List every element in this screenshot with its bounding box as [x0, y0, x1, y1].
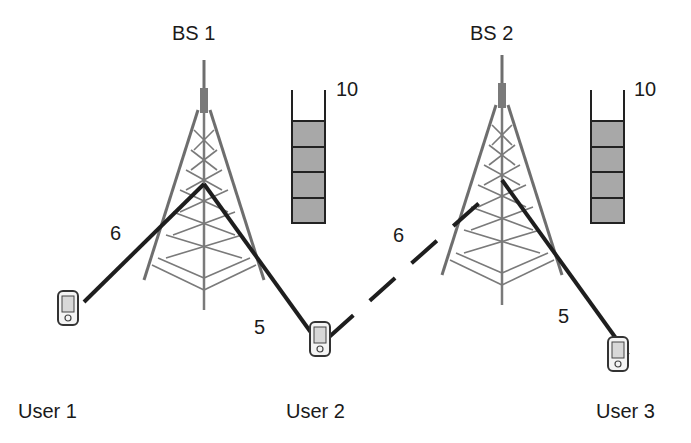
bs2-queue-capacity: 10	[634, 78, 656, 101]
phone-icon	[310, 322, 330, 356]
link-weight-user2-bs2: 6	[393, 224, 404, 247]
link-weight-user3-bs2: 5	[558, 305, 569, 328]
user2-label: User 2	[286, 400, 345, 423]
bs1-label: BS 1	[172, 22, 215, 45]
link-weight-user2-bs1: 5	[254, 316, 265, 339]
bs1-queue-capacity: 10	[336, 78, 358, 101]
queue-bs2	[591, 90, 624, 223]
queue-bs1	[292, 90, 325, 223]
bs2-label: BS 2	[470, 22, 513, 45]
diagram-graphics	[0, 0, 691, 443]
user1-label: User 1	[18, 400, 77, 423]
phone-icon	[58, 291, 78, 325]
user3-label: User 3	[596, 400, 655, 423]
phone-icon	[608, 337, 628, 371]
link-weight-user1-bs1: 6	[110, 222, 121, 245]
network-diagram: BS 1 BS 2 10 10 6 5 6 5 User 1 User 2 Us…	[0, 0, 691, 443]
